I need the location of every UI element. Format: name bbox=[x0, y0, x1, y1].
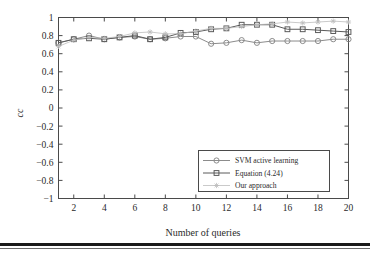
y-tick-label: −0.8 bbox=[36, 176, 53, 186]
series-0 bbox=[56, 33, 351, 46]
y-tick-label: 0.6 bbox=[42, 49, 54, 59]
x-tick-label: 2 bbox=[71, 203, 76, 213]
series-2 bbox=[56, 19, 351, 50]
y-axis-title: cc bbox=[14, 108, 25, 117]
x-tick-label: 8 bbox=[163, 203, 168, 213]
y-tick-label: −0.2 bbox=[36, 122, 53, 132]
y-tick-label: 0 bbox=[49, 103, 54, 113]
x-tick-label: 12 bbox=[222, 203, 232, 213]
x-tick-label: 4 bbox=[102, 203, 107, 213]
chart-legend: SVM active learningEquation (4.24)Our ap… bbox=[199, 151, 330, 192]
series-1 bbox=[56, 22, 351, 45]
chart-figure: 2468101214161820 −1−0.8−0.6−0.4−0.200.20… bbox=[0, 0, 370, 253]
x-tick-label: 20 bbox=[344, 203, 354, 213]
x-tick-label: 6 bbox=[132, 203, 137, 213]
x-axis-title: Number of queries bbox=[166, 227, 241, 238]
line-chart: 2468101214161820 −1−0.8−0.6−0.4−0.200.20… bbox=[0, 0, 370, 253]
x-axis-tick-labels: 2468101214161820 bbox=[71, 203, 353, 213]
legend-label: SVM active learning bbox=[235, 156, 298, 165]
x-tick-label: 14 bbox=[252, 203, 262, 213]
legend-label: Our approach bbox=[235, 181, 277, 190]
y-tick-label: −0.6 bbox=[36, 158, 53, 168]
data-series-layer bbox=[56, 19, 351, 50]
x-tick-label: 10 bbox=[191, 203, 201, 213]
x-tick-label: 16 bbox=[283, 203, 293, 213]
y-tick-label: 0.4 bbox=[42, 67, 54, 77]
x-tick-label: 18 bbox=[313, 203, 323, 213]
y-tick-label: 0.2 bbox=[42, 85, 54, 95]
legend-label: Equation (4.24) bbox=[235, 169, 283, 178]
y-tick-label: −0.4 bbox=[36, 140, 53, 150]
y-tick-label: 0.8 bbox=[42, 31, 54, 41]
footer-rule-thin bbox=[0, 248, 370, 249]
footer-rule bbox=[0, 243, 370, 246]
y-axis-tick-labels: −1−0.8−0.6−0.4−0.200.20.40.60.81 bbox=[36, 13, 53, 204]
y-tick-label: −1 bbox=[43, 194, 53, 204]
y-tick-label: 1 bbox=[49, 13, 54, 23]
